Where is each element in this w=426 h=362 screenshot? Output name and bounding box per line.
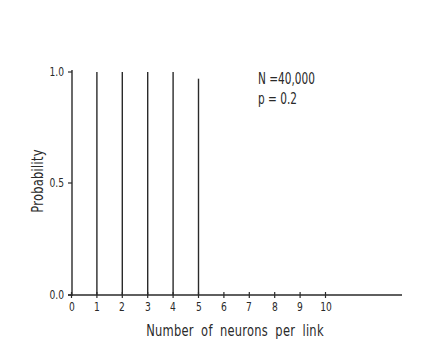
y-tick-label: 1.0 [33, 64, 64, 79]
x-tick-label: 0 [69, 299, 75, 314]
x-tick-label: 1 [94, 299, 100, 314]
x-tick-label: 9 [297, 299, 303, 314]
y-axis-label: Probability [29, 149, 47, 212]
x-tick-label: 6 [221, 299, 227, 314]
x-tick-label: 10 [320, 299, 332, 314]
x-tick-label: 4 [170, 299, 176, 314]
annotation-n: N =40,000 [258, 70, 315, 88]
probability-stem-chart: 1.0 0.5 0.0 012345678910 Probability Num… [0, 0, 426, 362]
x-tick-label: 3 [145, 299, 151, 314]
x-tick-label: 7 [246, 299, 252, 314]
annotation-p: p = 0.2 [258, 90, 297, 108]
x-tick-label: 8 [272, 299, 278, 314]
x-tick-label: 5 [196, 299, 202, 314]
y-tick-label: 0.0 [33, 287, 64, 302]
data-stems [97, 72, 199, 295]
x-tick-label: 2 [119, 299, 125, 314]
x-axis-label: Number of neurons per link [146, 322, 324, 340]
